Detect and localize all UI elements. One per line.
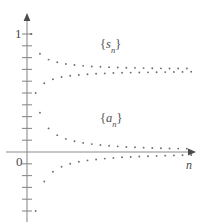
data-point: [91, 143, 93, 145]
data-point: [104, 158, 106, 160]
data-point: [74, 64, 76, 66]
data-point: [95, 158, 97, 160]
data-point: [186, 68, 188, 70]
data-point: [190, 154, 192, 156]
x-axis-arrow-icon: [188, 149, 196, 156]
data-point: [117, 67, 119, 69]
data-point: [52, 78, 54, 80]
data-point: [160, 67, 162, 69]
data-point: [65, 63, 67, 65]
data-point: [52, 171, 54, 173]
lower-sequence-close-brace: }: [117, 111, 123, 125]
data-point: [74, 140, 76, 142]
upper-sequence-close-brace: }: [115, 37, 121, 51]
data-point: [48, 127, 50, 129]
data-point: [91, 66, 93, 68]
data-point: [108, 66, 110, 68]
data-point: [147, 155, 149, 157]
data-point: [169, 68, 171, 70]
data-point: [125, 146, 127, 148]
data-point: [130, 72, 132, 74]
y-axis-arrow-icon: [24, 13, 31, 21]
data-point: [95, 73, 97, 75]
data-point: [117, 145, 119, 147]
data-point: [99, 66, 101, 68]
data-point: [121, 72, 123, 74]
data-point: [147, 71, 149, 73]
upper-sequence-label: {sn}: [100, 38, 121, 53]
data-point: [173, 71, 175, 73]
data-point: [87, 73, 89, 75]
lower-sequence-subscript: n: [112, 119, 116, 129]
data-point: [164, 155, 166, 157]
data-point: [134, 67, 136, 69]
sequence-convergence-figure: 1 0 n {sn} {an}: [0, 0, 201, 224]
data-point: [35, 210, 37, 212]
data-point: [65, 138, 67, 140]
data-point: [164, 71, 166, 73]
data-point: [99, 144, 101, 146]
data-point: [173, 154, 175, 156]
data-point: [182, 71, 184, 73]
data-point: [35, 92, 37, 94]
data-point: [130, 156, 132, 158]
data-point: [82, 65, 84, 67]
lower-sequence-label: {an}: [100, 112, 123, 127]
data-point: [69, 163, 71, 165]
data-point: [160, 147, 162, 149]
data-point: [48, 59, 50, 61]
data-point: [134, 146, 136, 148]
data-point: [186, 148, 188, 150]
data-point: [43, 82, 45, 84]
data-point: [138, 72, 140, 74]
data-point: [56, 134, 58, 136]
data-point: [151, 147, 153, 149]
data-point: [151, 67, 153, 69]
y-axis-tick-label-one: 1: [15, 27, 22, 40]
data-point: [78, 161, 80, 163]
data-point: [108, 145, 110, 147]
data-point: [138, 156, 140, 158]
data-point: [56, 61, 58, 63]
data-point: [82, 142, 84, 144]
data-point: [156, 155, 158, 157]
x-axis-variable-label: n: [186, 159, 192, 171]
data-point: [39, 112, 41, 114]
data-point: [143, 67, 145, 69]
data-point: [61, 76, 63, 78]
data-point: [78, 74, 80, 76]
data-point: [177, 148, 179, 150]
data-point: [112, 72, 114, 74]
data-point: [125, 67, 127, 69]
data-point: [30, 33, 32, 35]
data-point: [182, 154, 184, 156]
data-point: [121, 156, 123, 158]
data-point: [87, 159, 89, 161]
data-point: [143, 147, 145, 149]
data-point: [156, 71, 158, 73]
data-point: [177, 68, 179, 70]
data-point: [39, 53, 41, 55]
data-point: [169, 148, 171, 150]
data-point: [61, 166, 63, 168]
data-point: [43, 181, 45, 183]
origin-label: 0: [16, 155, 23, 168]
upper-sequence-subscript: n: [111, 45, 115, 55]
data-point: [69, 75, 71, 77]
data-point: [112, 157, 114, 159]
data-point: [104, 72, 106, 74]
data-point: [190, 71, 192, 73]
